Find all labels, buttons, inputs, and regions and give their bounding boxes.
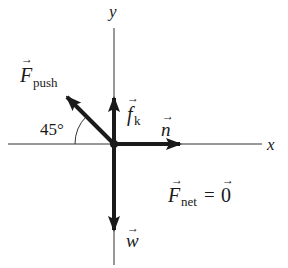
y-axis-label: y (107, 2, 117, 21)
svg-text:w: w (126, 230, 139, 251)
svg-text:F: F (19, 64, 33, 86)
friction-force-label: → f k (127, 91, 141, 128)
normal-force-label: → n (161, 109, 174, 140)
weight-force-label: → w (126, 221, 139, 251)
x-axis-label: x (266, 135, 275, 154)
push-force-arrow (67, 97, 114, 144)
push-force-label: → F push (19, 52, 58, 90)
net-force-equation: → F net = → 0 (167, 173, 234, 209)
origin-point (110, 140, 118, 148)
svg-text:=: = (204, 184, 215, 205)
svg-text:k: k (134, 113, 141, 128)
svg-text:F: F (167, 184, 181, 206)
free-body-diagram: x y 45° → F push → f k → n → w → F net =… (0, 0, 288, 268)
svg-text:n: n (161, 119, 171, 140)
angle-label: 45° (40, 120, 64, 139)
angle-arc (75, 116, 86, 144)
svg-text:net: net (181, 194, 197, 209)
svg-text:0: 0 (221, 184, 231, 206)
svg-text:push: push (33, 75, 58, 90)
